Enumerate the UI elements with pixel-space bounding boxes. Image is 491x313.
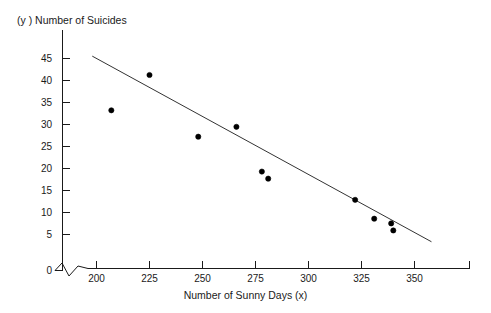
x-axis-tick-labels: 200 225 250 275 300 325 350: [88, 273, 423, 284]
plot-area: 45 40 35 30 25 20 15 10 5 0 200 225 250: [0, 0, 491, 313]
x-tick-label-200: 200: [88, 273, 105, 284]
y-tick-label-5: 5: [46, 229, 52, 240]
y-tick-label-35: 35: [41, 97, 53, 108]
x-tick-label-300: 300: [300, 273, 317, 284]
y-tick-label-45: 45: [41, 53, 53, 64]
x-axis-ticks: [97, 261, 470, 269]
data-point: [389, 221, 394, 226]
data-point: [259, 169, 264, 174]
y-tick-label-25: 25: [41, 141, 53, 152]
data-point: [372, 216, 377, 221]
y-tick-label-15: 15: [41, 185, 53, 196]
x-tick-label-325: 325: [353, 273, 370, 284]
x-tick-label-275: 275: [247, 273, 264, 284]
x-axis-title: Number of Sunny Days (x): [0, 289, 491, 301]
x-tick-label-250: 250: [194, 273, 211, 284]
data-point: [266, 176, 271, 181]
y-tick-label-30: 30: [41, 119, 53, 130]
data-point: [109, 108, 114, 113]
data-point: [196, 134, 201, 139]
y-axis-tick-labels: 45 40 35 30 25 20 15 10 5 0: [41, 53, 53, 276]
y-tick-label-10: 10: [41, 207, 53, 218]
x-tick-label-350: 350: [406, 273, 423, 284]
data-points-group: [109, 72, 396, 233]
y-tick-label-40: 40: [41, 75, 53, 86]
data-point: [147, 72, 152, 77]
y-tick-label-0: 0: [46, 265, 52, 276]
data-point: [353, 197, 358, 202]
x-axis-break-icon: [55, 263, 88, 276]
y-tick-label-20: 20: [41, 163, 53, 174]
data-point: [234, 124, 239, 129]
data-point: [391, 228, 396, 233]
regression-trendline: [92, 56, 431, 242]
scatter-chart: (y ) Number of Suicides 45 40 35 30 25: [0, 0, 491, 313]
x-tick-label-225: 225: [141, 273, 158, 284]
y-axis-ticks: [63, 59, 71, 235]
